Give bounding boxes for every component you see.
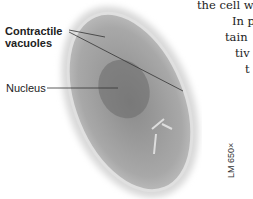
body-text-line: the cell wo: [197, 0, 253, 12]
body-text-line: t: [245, 62, 250, 76]
body-text-line: In p: [232, 14, 253, 28]
body-text-line: tiv: [235, 46, 250, 60]
label-line: Contractile: [5, 25, 62, 37]
label-line: vacuoles: [5, 37, 62, 49]
nucleus-label: Nucleus: [6, 82, 46, 94]
body-text-line: tain: [225, 30, 248, 44]
magnification-label: LM 650×: [226, 143, 236, 178]
contractile-vacuoles-label: Contractile vacuoles: [5, 25, 62, 49]
